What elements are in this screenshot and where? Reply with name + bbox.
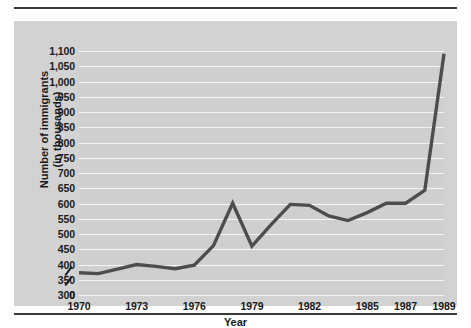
data-series-line: [79, 51, 444, 295]
horizontal-rule-bottom: [14, 313, 457, 315]
horizontal-rule-top: [14, 7, 457, 9]
x-axis-tick-label: 1973: [125, 300, 148, 312]
y-axis-title: Number of immigrants (in thousands): [38, 50, 63, 210]
y-axis-tick-label: 500: [31, 229, 75, 239]
x-axis-tick-label: 1970: [68, 300, 91, 312]
chart-card: 1,1001,0501,0009509008508007507006506005…: [14, 21, 457, 306]
x-axis-tick-label: 1985: [356, 300, 379, 312]
y-axis-tick-label: 450: [31, 244, 75, 254]
x-axis-tick-label: 1976: [183, 300, 206, 312]
x-axis-tick-label: 1979: [240, 300, 263, 312]
gridline: [79, 295, 444, 296]
x-axis-tick-label: 1987: [394, 300, 417, 312]
x-axis-title: Year: [14, 316, 457, 328]
x-axis-tick-label: 1989: [433, 300, 456, 312]
x-axis-tick-label: 1982: [298, 300, 321, 312]
plot-area: [79, 51, 444, 295]
y-axis-tick-label: 550: [31, 214, 75, 224]
